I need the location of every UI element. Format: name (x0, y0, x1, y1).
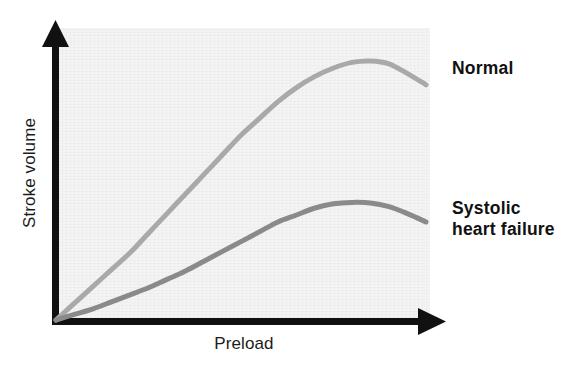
series-label-systolic-heart-failure: Systolic heart failure (452, 198, 555, 241)
series-label-normal: Normal (452, 58, 514, 79)
x-axis-arrowhead-icon (418, 308, 446, 335)
y-axis-arrowhead-icon (42, 20, 69, 47)
y-axis-label: Stroke volume (18, 28, 42, 318)
x-axis-label: Preload (58, 334, 430, 354)
frank-starling-curve-figure: Stroke volume Preload Normal Systolic he… (0, 0, 577, 368)
series-line-normal (56, 61, 426, 320)
chart-canvas (0, 0, 577, 368)
series-line-systolic-heart-failure (56, 202, 426, 320)
